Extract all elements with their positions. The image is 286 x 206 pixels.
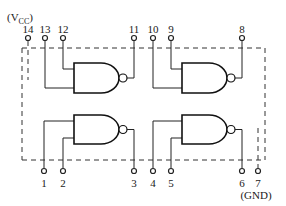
pin-9 [169,36,174,41]
pin-label-5: 5 [168,177,174,189]
wire-pin-9 [171,41,182,69]
pin-8 [240,36,245,41]
pin-label-8: 8 [239,23,245,35]
pin-label-3: 3 [131,177,137,189]
pin-7 [256,169,261,174]
nand-gate-body [182,115,227,144]
wire-pin-12 [63,41,74,69]
wire-pin-8 [235,41,242,78]
top-pins [26,36,245,41]
inverter-bubble [119,74,127,82]
pin-label-13: 13 [40,23,52,35]
nand-gate-body [182,63,227,93]
inverter-bubble [119,126,127,134]
gate-3-nand [153,41,242,93]
gate-4-nand [45,41,134,93]
pin-6 [240,169,245,174]
wire-pin-4 [153,121,182,168]
pin-label-1: 1 [41,177,47,189]
bottom-pins [42,169,261,174]
pin-3 [132,169,137,174]
pin-14 [26,36,31,41]
gnd-label: (GND) [240,189,271,202]
inverter-bubble [227,126,235,134]
pin-2 [61,169,66,174]
top-pin-labels: 14 13 12 11 10 9 8 [23,23,246,35]
pin-label-4: 4 [150,177,156,189]
pin-label-2: 2 [60,177,66,189]
nand-ic-pinout-diagram: (VCC) 14 13 12 11 10 9 8 [0,0,286,206]
pin-label-14: 14 [23,23,35,35]
pin-4 [151,169,156,174]
wire-pin-3 [127,130,134,169]
bottom-pin-labels: 1 2 3 4 5 6 7 [41,177,261,189]
wire-pin-6 [235,130,242,169]
nand-gate-body [74,63,119,93]
wire-pin-2 [63,138,74,168]
pin-label-7: 7 [255,177,261,189]
wire-pin-11 [127,41,134,78]
pin-label-9: 9 [168,23,174,35]
pin-5 [169,169,174,174]
inverter-bubble [227,74,235,82]
pin-label-10: 10 [148,23,160,35]
nand-gate-body [74,115,119,144]
pin-label-6: 6 [239,177,245,189]
pin-10 [151,36,156,41]
pin-label-12: 12 [58,23,69,35]
pin-13 [43,36,48,41]
wire-pin-5 [171,138,182,168]
pin-label-11: 11 [129,23,140,35]
package-outline [22,41,265,168]
pin-12 [61,36,66,41]
wire-pin-1 [44,121,74,168]
pin-11 [132,36,137,41]
pin-1 [42,169,47,174]
